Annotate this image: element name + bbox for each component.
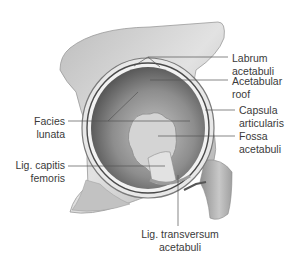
label-capsula-articularis: Capsula articularis [239,104,284,129]
label-line: acetabuli [138,241,222,254]
label-line: acetabuli [239,143,281,156]
label-line: Lig. transversum [138,228,222,241]
label-facies-lunata: Facies lunata [34,115,65,140]
label-labrum-acetabuli: Labrum acetabuli [232,52,274,77]
label-line: Acetabular [232,75,282,88]
label-lig-transversum-acetabuli: Lig. transversum acetabuli [138,228,222,253]
label-line: Labrum [232,52,274,65]
label-line: Capsula [239,104,284,117]
label-line: femoris [15,172,65,185]
label-line: roof [232,88,282,101]
femur-bone [200,160,232,220]
label-acetabular-roof: Acetabular roof [232,75,282,100]
label-line: Lig. capitis [15,159,65,172]
label-line: Fossa [239,130,281,143]
label-fossa-acetabuli: Fossa acetabuli [239,130,281,155]
label-lig-capitis-femoris: Lig. capitis femoris [15,159,65,184]
label-line: Facies [34,115,65,128]
label-line: articularis [239,117,284,130]
label-line: lunata [34,128,65,141]
